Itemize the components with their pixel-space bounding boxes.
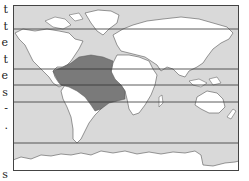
text-fragment: t (0, 52, 8, 69)
text-fragment (0, 134, 8, 151)
world-map-svg (13, 5, 239, 171)
world-map (13, 5, 239, 171)
text-fragment: e (0, 35, 8, 52)
text-fragment: s (0, 85, 8, 102)
text-fragment: e (0, 68, 8, 85)
text-fragment: t (0, 2, 8, 19)
text-fragment: . (0, 118, 8, 135)
text-fragment: s (0, 167, 8, 181)
text-fragment (0, 151, 8, 168)
text-fragment: t (0, 19, 8, 36)
cropped-body-text: t t e t e s - . s (0, 2, 8, 181)
text-fragment: - (0, 101, 8, 118)
